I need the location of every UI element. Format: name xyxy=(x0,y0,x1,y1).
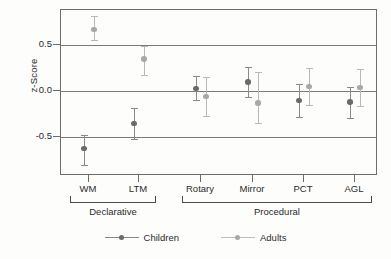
error-bar-cap xyxy=(91,16,98,17)
plot-area xyxy=(60,9,377,175)
x-tick-mark xyxy=(200,175,201,182)
gridline xyxy=(61,45,376,46)
y-tick-label: 0.5 xyxy=(18,38,52,49)
legend-marker-children-icon xyxy=(105,234,139,242)
data-point-marker xyxy=(357,85,363,91)
error-bar-cap xyxy=(296,117,303,118)
error-bar-cap xyxy=(357,69,364,70)
legend-label-adults: Adults xyxy=(260,232,286,243)
x-tick-label-agl: AGL xyxy=(344,183,363,194)
error-bar-cap xyxy=(131,139,138,140)
x-tick-label-pct: PCT xyxy=(294,183,313,194)
data-point-marker xyxy=(306,84,312,90)
error-bar-cap xyxy=(347,118,354,119)
gridline xyxy=(61,91,376,92)
group-bracket xyxy=(182,196,372,203)
data-point-marker xyxy=(81,146,87,152)
chart-figure: z-Score 0.50.0-0.5 WMLTMRotaryMirrorPCTA… xyxy=(0,0,391,259)
error-bar-cap xyxy=(81,135,88,136)
x-tick-label-ltm: LTM xyxy=(129,183,147,194)
error-bar-cap xyxy=(193,76,200,77)
y-tick-mark xyxy=(53,136,60,137)
error-bar-cap xyxy=(255,123,262,124)
y-tick-label: 0.0 xyxy=(18,84,52,95)
x-tick-mark xyxy=(138,175,139,182)
group-label-declarative: Declarative xyxy=(89,206,137,217)
legend-item-children[interactable]: Children xyxy=(105,232,179,243)
data-point-marker xyxy=(255,100,261,106)
legend-label-children: Children xyxy=(144,232,179,243)
legend-item-adults[interactable]: Adults xyxy=(221,232,286,243)
error-bar-cap xyxy=(193,100,200,101)
gridline xyxy=(61,137,376,138)
y-tick-mark xyxy=(53,44,60,45)
error-bar-cap xyxy=(245,97,252,98)
error-bar-cap xyxy=(306,105,313,106)
error-bar-cap xyxy=(131,108,138,109)
data-point-marker xyxy=(347,99,353,105)
error-bar xyxy=(258,72,259,123)
x-tick-mark xyxy=(303,175,304,182)
error-bar-cap xyxy=(81,165,88,166)
group-bracket xyxy=(70,196,156,203)
y-tick-mark xyxy=(53,90,60,91)
error-bar-cap xyxy=(141,46,148,47)
data-point-marker xyxy=(193,86,199,92)
error-bar-cap xyxy=(306,68,313,69)
x-tick-mark xyxy=(354,175,355,182)
chart-legend: Children Adults xyxy=(0,232,391,243)
data-point-marker xyxy=(296,98,302,104)
error-bar-cap xyxy=(91,40,98,41)
x-tick-label-wm: WM xyxy=(80,183,97,194)
data-point-marker xyxy=(131,121,137,127)
group-label-procedural: Procedural xyxy=(254,206,300,217)
x-tick-mark xyxy=(88,175,89,182)
error-bar-cap xyxy=(357,106,364,107)
error-bar-cap xyxy=(296,84,303,85)
x-tick-mark xyxy=(252,175,253,182)
error-bar-cap xyxy=(141,75,148,76)
data-point-marker xyxy=(245,79,251,85)
error-bar-cap xyxy=(347,87,354,88)
y-axis-label: z-Score xyxy=(28,41,39,111)
x-tick-label-mirror: Mirror xyxy=(240,183,265,194)
data-point-marker xyxy=(91,27,97,33)
data-point-marker xyxy=(141,56,147,62)
error-bar-cap xyxy=(255,72,262,73)
error-bar-cap xyxy=(245,67,252,68)
legend-marker-adults-icon xyxy=(221,234,255,242)
y-tick-label: -0.5 xyxy=(18,130,52,141)
x-tick-label-rotary: Rotary xyxy=(186,183,214,194)
data-point-marker xyxy=(203,94,209,100)
error-bar-cap xyxy=(203,77,210,78)
error-bar-cap xyxy=(203,116,210,117)
